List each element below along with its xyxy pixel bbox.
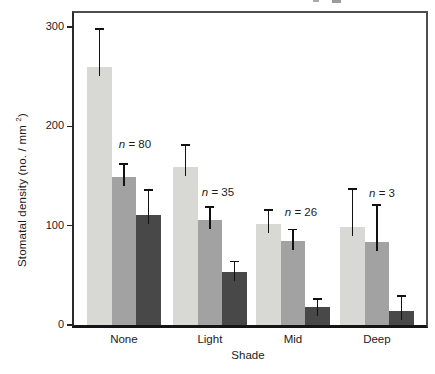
error-bar-cap: [95, 28, 104, 30]
error-bar-line: [123, 164, 125, 186]
error-bar-cap: [119, 163, 128, 165]
error-bar-line: [352, 189, 354, 236]
n-italic: n: [119, 138, 125, 150]
error-bar-cap: [288, 229, 297, 231]
error-bar-line: [376, 205, 378, 251]
bar-light-gray-bars-deep: [340, 227, 365, 325]
n-count-annotation-mid: n = 26: [285, 206, 317, 218]
y-axis-title-text: Stomatal density (no. / mm: [16, 122, 28, 267]
error-bar-cap: [372, 204, 381, 206]
n-count-annotation-deep: n = 3: [369, 187, 395, 199]
n-count-annotation-light: n = 35: [202, 186, 234, 198]
n-count-annotation-none: n = 80: [119, 138, 151, 150]
x-category-label-mid: Mid: [263, 333, 323, 345]
x-category-label-none: None: [94, 333, 154, 345]
error-bar-cap: [230, 261, 239, 263]
y-axis-tick-mark: [67, 324, 74, 326]
bar-mid-gray-bars-none: [112, 177, 137, 325]
n-italic: n: [369, 187, 375, 199]
bar-light-gray-bars-none: [87, 67, 112, 325]
error-bar-line: [234, 261, 236, 281]
bar-mid-gray-bars-mid: [281, 241, 306, 325]
error-bar-cap: [144, 189, 153, 191]
error-bar-line: [148, 190, 150, 224]
cut-off-text-fragment: [313, 0, 319, 2]
bar-mid-gray-bars-deep: [365, 242, 390, 325]
error-bar-cap: [313, 298, 322, 300]
error-bar-cap: [205, 206, 214, 208]
error-bar-cap: [181, 144, 190, 146]
y-axis-tick-label: 300: [28, 20, 64, 32]
x-category-label-deep: Deep: [347, 333, 407, 345]
y-axis-tick-mark: [67, 26, 74, 28]
x-axis-title: Shade: [72, 349, 424, 361]
cut-off-text-fragment: [332, 0, 341, 3]
error-bar-line: [292, 230, 294, 250]
y-axis-title-superscript: 2: [14, 117, 23, 122]
plot-area: 0100200300NoneLightMidDeepn = 80n = 35n …: [72, 11, 428, 328]
error-bar-cap: [397, 295, 406, 297]
error-bar-line: [209, 207, 211, 229]
n-italic: n: [202, 186, 208, 198]
error-bar-cap: [348, 188, 357, 190]
x-category-label-light: Light: [180, 333, 240, 345]
error-bar-line: [317, 299, 319, 316]
figure: Stomatal density (no. / mm 2) 0100200300…: [0, 0, 435, 374]
y-axis-tick-label: 200: [28, 119, 64, 131]
error-bar-line: [185, 145, 187, 176]
error-bar-line: [268, 210, 270, 233]
y-axis-tick-label: 0: [28, 318, 64, 330]
y-axis-tick-mark: [67, 126, 74, 128]
error-bar-line: [401, 296, 403, 320]
y-axis-title: Stomatal density (no. / mm 2): [14, 113, 28, 267]
n-italic: n: [285, 206, 291, 218]
y-axis-tick-label: 100: [28, 219, 64, 231]
error-bar-cap: [264, 209, 273, 211]
y-axis-title-close-paren: ): [16, 113, 28, 117]
bar-mid-gray-bars-light: [198, 220, 223, 325]
bar-light-gray-bars-mid: [256, 224, 281, 325]
y-axis-tick-mark: [67, 225, 74, 227]
bar-dark-gray-bars-none: [136, 215, 161, 325]
bar-light-gray-bars-light: [173, 167, 198, 325]
error-bar-line: [99, 29, 101, 76]
